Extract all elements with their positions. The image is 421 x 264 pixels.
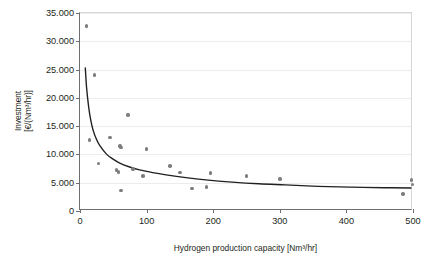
- data-point: [401, 192, 405, 196]
- y-axis-title-line2: [€/(Nm³/hr)]: [23, 36, 33, 186]
- data-point: [168, 164, 172, 168]
- x-tick-mark: [213, 209, 214, 213]
- x-tick-mark: [280, 209, 281, 213]
- y-tick-label: 25.000: [46, 65, 74, 75]
- y-tick-label: 10.000: [46, 149, 74, 159]
- data-point: [178, 171, 182, 175]
- x-tick-mark: [147, 209, 148, 213]
- y-tick-label: 15.000: [46, 121, 74, 131]
- data-point: [145, 147, 149, 151]
- y-tick-label: 35.000: [46, 8, 74, 18]
- y-axis-title: Investment [€/(Nm³/hr)]: [13, 36, 39, 186]
- data-point: [88, 138, 92, 142]
- data-point: [190, 187, 194, 191]
- x-tick-label: 500: [405, 216, 420, 226]
- x-tick-mark: [80, 209, 81, 213]
- x-tick-label: 400: [339, 216, 354, 226]
- chart-figure: Investment [€/(Nm³/hr)] 05.00010.00015.0…: [0, 0, 421, 264]
- trend-curve: [80, 13, 411, 209]
- data-point: [245, 174, 249, 178]
- data-point: [126, 113, 130, 117]
- x-tick-mark: [346, 209, 347, 213]
- data-point: [410, 178, 414, 182]
- y-tick-label: 0: [69, 206, 74, 216]
- x-tick-mark: [413, 209, 414, 213]
- y-tick-label: 30.000: [46, 36, 74, 46]
- plot-area: 05.00010.00015.00020.00025.00030.00035.0…: [79, 12, 412, 210]
- x-tick-label: 200: [206, 216, 221, 226]
- y-tick-label: 5.000: [51, 178, 74, 188]
- x-tick-label: 300: [272, 216, 287, 226]
- data-point: [131, 167, 135, 171]
- data-point: [108, 136, 112, 140]
- y-axis-title-line1: Investment: [13, 91, 23, 131]
- data-point: [411, 183, 415, 187]
- x-axis-title: Hydrogen production capacity [Nm³/hr]: [79, 243, 412, 253]
- data-point: [278, 177, 282, 181]
- y-tick-label: 20.000: [46, 93, 74, 103]
- x-tick-label: 100: [139, 216, 154, 226]
- x-tick-label: 0: [77, 216, 82, 226]
- data-point: [141, 174, 145, 178]
